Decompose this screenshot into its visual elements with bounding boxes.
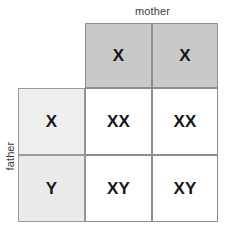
father-allele-header-2: Y — [18, 155, 85, 222]
offspring-cell-r2c2: XY — [152, 155, 218, 222]
mother-allele-header-2: X — [152, 23, 218, 88]
punnett-grid: X X X XX XX Y XY XY — [18, 23, 218, 222]
mother-axis-label: mother — [110, 5, 195, 17]
offspring-cell-r1c2: XX — [152, 88, 218, 155]
punnett-square-diagram: mother father X X X XX XX Y XY XY — [0, 0, 229, 231]
offspring-cell-r1c1: XX — [85, 88, 152, 155]
father-allele-header-1: X — [18, 88, 85, 155]
offspring-cell-r2c1: XY — [85, 155, 152, 222]
grid-corner-cell — [18, 23, 85, 88]
mother-allele-header-1: X — [85, 23, 152, 88]
father-axis-label: father — [4, 128, 16, 184]
